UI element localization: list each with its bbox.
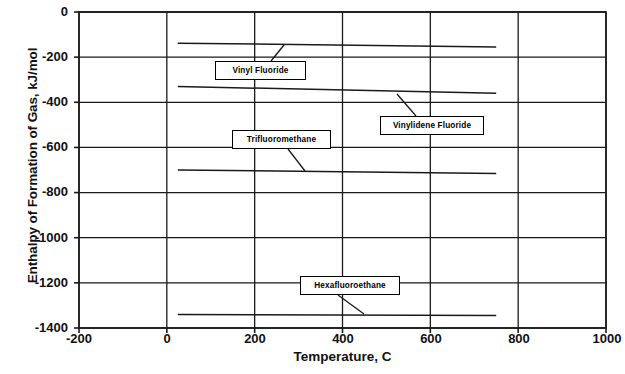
data-line-vinyl-fluoride (178, 43, 496, 47)
data-line-trifluoromethane (178, 170, 496, 173)
plot-area (0, 0, 625, 374)
callout-hexafluoroethane[interactable]: Hexafluoroethane (300, 276, 400, 295)
leader-line (288, 149, 305, 171)
data-line-hexafluoroethane (178, 314, 496, 315)
data-series-group (178, 43, 496, 315)
chart-figure: Enthalpy of Formation of Gas, kJ/mol 0 -… (0, 0, 625, 374)
leader-line (397, 94, 416, 116)
annotation-leader-lines (271, 45, 416, 314)
callout-vinyl-fluoride[interactable]: Vinyl Fluoride (215, 61, 306, 80)
data-line-vinylidene-fluoride (178, 86, 496, 93)
leader-line (271, 45, 284, 61)
callout-vinylidene-fluoride[interactable]: Vinylidene Fluoride (380, 116, 484, 135)
callout-trifluoromethane[interactable]: Trifluoromethane (232, 130, 331, 149)
